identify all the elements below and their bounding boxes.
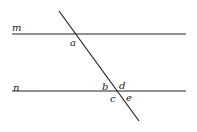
- angle-label-b: b: [102, 81, 108, 92]
- transversal-line: [59, 11, 139, 121]
- angle-label-e: e: [126, 92, 132, 103]
- line-label-n: n: [13, 82, 19, 93]
- geometry-diagram: m n a b d c e: [0, 0, 197, 132]
- angle-label-d: d: [119, 80, 125, 91]
- line-label-m: m: [12, 22, 21, 33]
- angle-label-c: c: [110, 93, 116, 104]
- angle-label-a: a: [70, 37, 76, 48]
